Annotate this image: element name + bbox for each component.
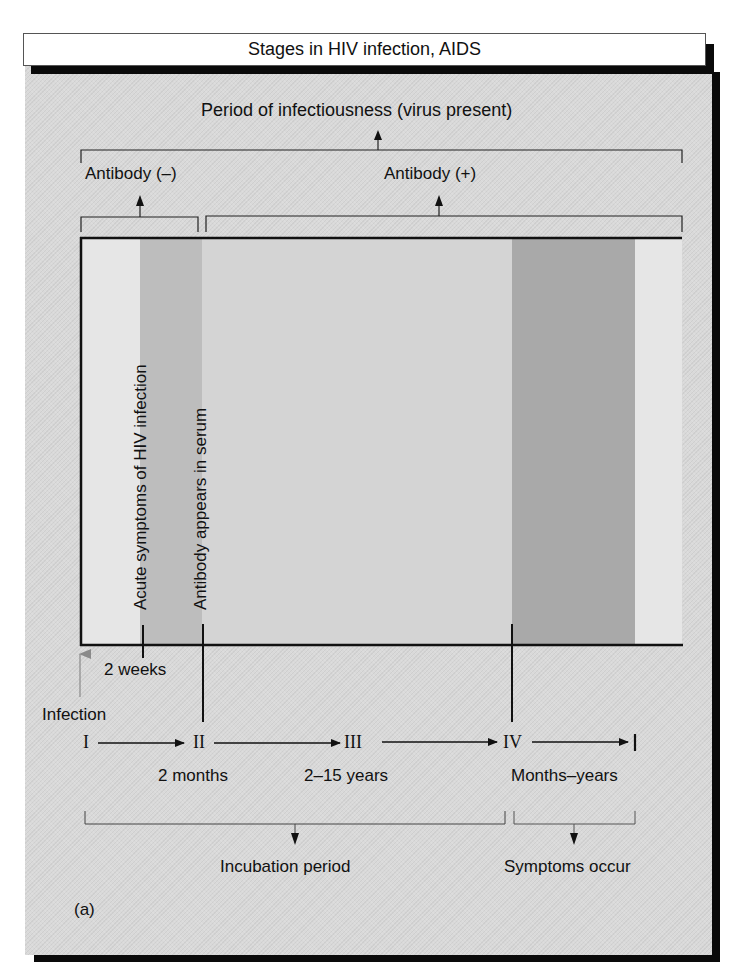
down-arrow-icon — [291, 833, 299, 845]
antibody-positive-label: Antibody (+) — [384, 164, 476, 184]
down-arrow-icon — [570, 833, 578, 845]
acute-symptoms-label: Acute symptoms of HIV infection — [131, 364, 151, 610]
chart-frame — [80, 237, 683, 646]
symptoms-bracket — [514, 811, 635, 836]
antibody-appears-label: Antibody appears in serum — [191, 408, 211, 610]
stage-i: I — [83, 732, 89, 753]
duration-2-15-years: 2–15 years — [304, 766, 388, 786]
stage-iii: III — [344, 732, 362, 753]
up-arrow-icon — [435, 195, 443, 206]
antibody-negative-label: Antibody (–) — [85, 164, 177, 184]
infectiousness-label: Period of infectiousness (virus present) — [201, 100, 512, 121]
stage-ii: II — [193, 732, 205, 753]
two-weeks-label: 2 weeks — [104, 660, 166, 680]
up-arrow-icon — [374, 130, 382, 140]
incubation-bracket — [85, 811, 505, 836]
infectiousness-bracket — [81, 136, 682, 163]
panel-label: (a) — [74, 900, 95, 920]
duration-months-years: Months–years — [511, 766, 618, 786]
incubation-label: Incubation period — [220, 857, 350, 877]
infection-label: Infection — [42, 705, 106, 725]
stage-iv: IV — [503, 732, 522, 753]
antibody-negative-bracket — [81, 202, 198, 232]
duration-2-months: 2 months — [158, 766, 228, 786]
antibody-positive-bracket — [206, 202, 682, 232]
diagram-lines — [0, 0, 738, 974]
symptoms-occur-label: Symptoms occur — [504, 857, 631, 877]
up-arrow-icon — [136, 195, 144, 206]
